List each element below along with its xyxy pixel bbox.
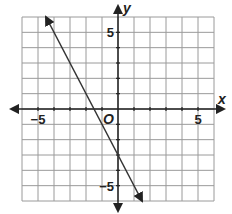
axes (11, 6, 224, 211)
y-tick-label: −5 (99, 179, 114, 194)
x-tick-label: −5 (31, 112, 46, 127)
origin-label: O (103, 111, 114, 127)
x-tick-label: 5 (194, 112, 201, 127)
y-axis-label: y (122, 0, 132, 16)
x-axis-label: x (217, 91, 227, 107)
y-tick-label: 5 (107, 25, 114, 40)
coordinate-plane: x y O −555−5 (0, 0, 232, 214)
